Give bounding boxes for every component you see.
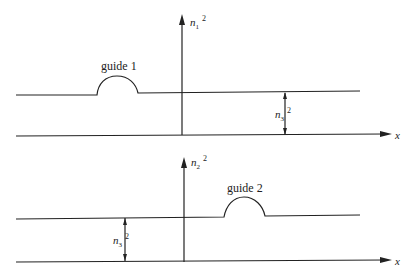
bottom-n3-label: n32: [113, 232, 129, 249]
top-x-arrow-icon: [380, 131, 392, 137]
bottom-x-arrow-icon: [380, 257, 392, 263]
top-panel: [16, 14, 392, 137]
bottom-index-profile: [16, 197, 360, 219]
guide-2-label: guide 2: [227, 181, 263, 195]
bottom-n3-arrow-down-icon: [123, 254, 127, 261]
top-x-label: x: [394, 129, 400, 141]
top-n3-arrow-up-icon: [283, 92, 287, 99]
top-axis-arrow-icon: [179, 14, 185, 25]
top-index-profile: [16, 76, 360, 95]
bottom-x-axis: [16, 260, 385, 262]
bottom-n3-arrow-up-icon: [123, 218, 127, 225]
top-n3-label: n32: [275, 106, 291, 123]
bottom-x-label: x: [394, 255, 400, 267]
waveguide-index-profile-diagram: n12 guide 1 n32 x n22 guide 2 n32 x: [0, 0, 418, 276]
diagram-svg: n12 guide 1 n32 x n22 guide 2 n32 x: [0, 0, 418, 276]
bottom-axis-label: n22: [191, 154, 207, 171]
top-axis-label: n12: [190, 14, 206, 31]
guide-1-label: guide 1: [101, 59, 137, 73]
bottom-panel: [16, 157, 392, 263]
bottom-axis-arrow-icon: [181, 157, 187, 168]
top-x-axis: [16, 134, 385, 136]
